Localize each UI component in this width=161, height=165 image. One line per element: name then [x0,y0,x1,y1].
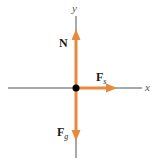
x-axis-label: x [145,82,150,93]
friction-force-label: Fs [96,71,106,83]
normal-force-arrow [72,29,81,88]
normal-force-label: N [59,37,68,49]
free-body-diagram: y x N Fs Fg [0,0,161,165]
diagram-canvas [0,0,161,165]
y-axis-label: y [72,3,77,14]
gravity-force-label-sub: g [64,132,68,141]
gravity-force-label: Fg [57,126,68,138]
normal-force-label-main: N [59,36,68,50]
origin-point [73,85,80,92]
gravity-force-arrow [72,88,81,141]
friction-force-arrow [76,84,117,93]
